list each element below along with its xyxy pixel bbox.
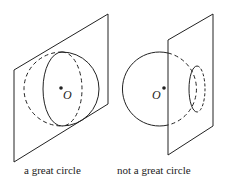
diagram: [0, 0, 227, 182]
left-caption: a great circle: [24, 164, 81, 176]
right-figure: [122, 14, 213, 155]
right-small-circle-dashed: [197, 66, 205, 112]
right-sphere-dashed: [168, 53, 196, 125]
left-figure: [14, 14, 108, 162]
right-caption: not a great circle: [117, 164, 191, 176]
right-center-label: O: [152, 88, 161, 103]
right-sphere-solid: [122, 52, 168, 126]
left-center-label: O: [63, 88, 72, 103]
right-center-dot: [162, 86, 166, 90]
left-sphere-front: [43, 52, 62, 126]
right-plane: [168, 14, 213, 155]
